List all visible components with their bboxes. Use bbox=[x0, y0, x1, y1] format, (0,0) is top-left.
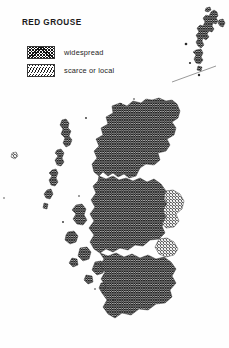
map-canvas bbox=[0, 0, 229, 348]
map-inset-orkney bbox=[189, 49, 203, 76]
scotland-map-svg bbox=[0, 0, 229, 348]
distribution-map-figure: RED GROUSE widespread scarce or local bbox=[0, 0, 229, 348]
map-area-southern-scotland bbox=[100, 253, 176, 318]
map-area-central-highlands bbox=[89, 176, 168, 253]
map-area-outer-hebrides bbox=[11, 119, 72, 209]
map-area-mainland-north bbox=[92, 98, 180, 178]
map-inset-shetland bbox=[185, 7, 225, 48]
inset-divider-line bbox=[172, 66, 216, 82]
